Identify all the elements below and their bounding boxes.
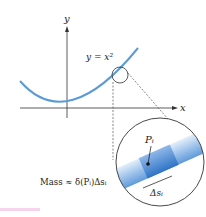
- x-arrow-icon: [172, 106, 178, 110]
- y-arrow-icon: [65, 26, 69, 32]
- caption-accent: [0, 208, 40, 211]
- segment-label: Δsᵢ: [149, 188, 163, 198]
- wire-mass-diagram: y x y = x² Pᵢ Δsᵢ Mass ≈ δ(Pᵢ)Δsᵢ: [0, 0, 206, 217]
- axes: [20, 26, 178, 118]
- curve-label: y = x²: [85, 52, 113, 62]
- mass-formula: Mass ≈ δ(Pᵢ)Δsᵢ: [40, 177, 107, 187]
- zoom-detail: Pᵢ Δsᵢ: [100, 118, 206, 206]
- x-axis-label: x: [180, 102, 186, 113]
- parabola-curve: [20, 48, 138, 102]
- point-label: Pᵢ: [144, 134, 154, 145]
- y-axis-label: y: [63, 13, 70, 24]
